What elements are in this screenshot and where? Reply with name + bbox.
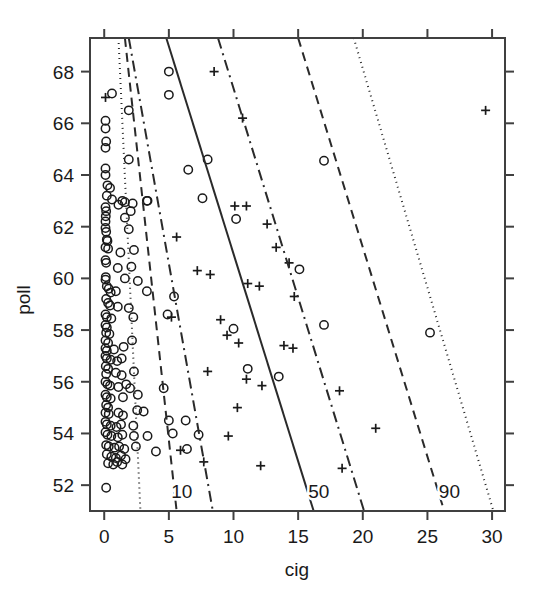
y-tick-label-66: 66 — [53, 113, 74, 134]
quantile-label-10: 10 — [171, 481, 192, 502]
y-axis-tick-labels: 525456586062646668 — [53, 62, 75, 497]
y-tick-label-56: 56 — [53, 372, 74, 393]
x-tick-label-30: 30 — [482, 526, 503, 547]
figure-container: 051015202530 525456586062646668 105090 c… — [0, 0, 535, 603]
y-tick-label-52: 52 — [53, 475, 74, 496]
quantile-label-90: 90 — [439, 481, 460, 502]
y-tick-label-60: 60 — [53, 268, 74, 289]
y-axis-title: poll — [13, 285, 34, 315]
y-tick-label-62: 62 — [53, 217, 74, 238]
quantile-label-50: 50 — [308, 481, 329, 502]
scatter-plot: 051015202530 525456586062646668 105090 c… — [0, 0, 535, 603]
y-tick-label-54: 54 — [53, 423, 75, 444]
y-tick-label-64: 64 — [53, 165, 75, 186]
x-tick-label-15: 15 — [288, 526, 309, 547]
x-tick-label-5: 5 — [164, 526, 175, 547]
plot-background — [0, 0, 535, 603]
x-tick-label-20: 20 — [352, 526, 373, 547]
x-tick-label-25: 25 — [417, 526, 438, 547]
x-axis-title: cig — [285, 559, 309, 580]
y-tick-label-68: 68 — [53, 62, 74, 83]
y-tick-label-58: 58 — [53, 320, 74, 341]
x-tick-label-10: 10 — [223, 526, 244, 547]
x-tick-label-0: 0 — [99, 526, 110, 547]
